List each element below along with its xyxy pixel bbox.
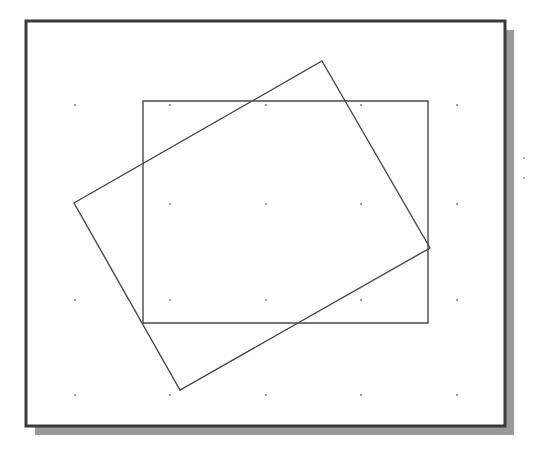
grid-dot xyxy=(456,394,458,396)
grid-dot xyxy=(360,104,362,106)
figure-root xyxy=(0,0,534,456)
grid-dot xyxy=(265,299,267,301)
figure-canvas xyxy=(0,0,534,456)
grid-dot xyxy=(265,203,267,205)
grid-dot xyxy=(74,394,76,396)
outer-frame-rect xyxy=(26,21,505,426)
grid-dot xyxy=(265,394,267,396)
grid-dot xyxy=(456,104,458,106)
grid-dot xyxy=(169,203,171,205)
grid-dot xyxy=(360,394,362,396)
stray-mark xyxy=(523,177,525,179)
grid-dot xyxy=(74,299,76,301)
grid-dot xyxy=(74,104,76,106)
grid-dot xyxy=(456,299,458,301)
outer-frame xyxy=(26,21,505,426)
stray-mark xyxy=(523,157,525,159)
grid-dot xyxy=(360,299,362,301)
grid-dot xyxy=(265,104,267,106)
grid-dot xyxy=(169,104,171,106)
grid-dot xyxy=(169,299,171,301)
grid-dot xyxy=(169,394,171,396)
grid-dot xyxy=(360,203,362,205)
grid-dot xyxy=(456,203,458,205)
